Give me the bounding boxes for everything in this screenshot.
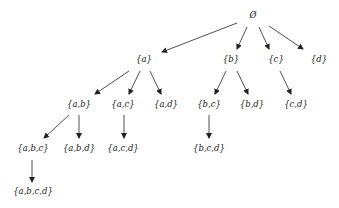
node-abcd: {a,b,c,d} (13, 186, 53, 196)
edge-b-to-bd (237, 71, 248, 94)
node-bc: {b,c} (197, 99, 221, 109)
node-abd: {a,b,d} (63, 143, 95, 153)
edge-empty-to-a (162, 23, 237, 52)
edge-empty-to-b (237, 27, 247, 49)
node-d: {d} (311, 54, 327, 64)
node-ad: {a,d} (154, 99, 178, 109)
node-bd: {b,d} (240, 99, 264, 109)
node-c: {c} (268, 54, 284, 64)
node-bcd: {b,c,d} (193, 143, 225, 153)
edge-b-to-bc (215, 71, 226, 94)
edge-c-to-cd (280, 71, 291, 94)
edge-a-to-ac (129, 71, 140, 94)
node-empty-set: Ø (250, 10, 257, 20)
node-cd: {c,d} (284, 99, 308, 109)
node-ab: {a,b} (67, 99, 91, 109)
node-b: {b} (223, 54, 239, 64)
node-a: {a} (136, 54, 152, 64)
edge-empty-to-d (269, 26, 303, 49)
edge-ab-to-abc (44, 115, 69, 138)
edge-a-to-ad (150, 71, 161, 94)
subset-tree-diagram: Ø {a} {b} {c} {d} {a,b} {a,c} {a,d} {b,c… (0, 0, 339, 208)
edge-a-to-ab (95, 71, 129, 94)
node-ac: {a,c} (111, 99, 134, 109)
edge-empty-to-c (259, 27, 269, 49)
node-abc: {a,b,c} (17, 143, 49, 153)
node-acd: {a,c,d} (107, 143, 139, 153)
